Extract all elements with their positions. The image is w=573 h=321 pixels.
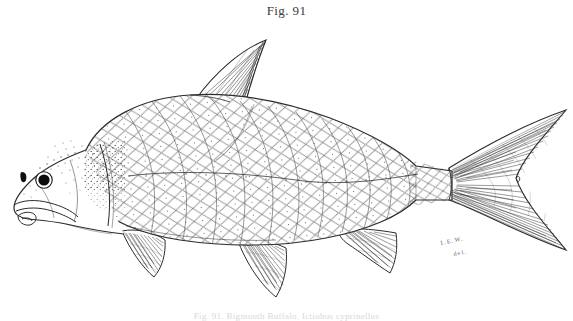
eye [36,172,52,188]
pectoral-fin [122,230,165,277]
artist-signature: I.E.W. del. [440,235,468,257]
plate-caption: Fig. 91. Bigmouth Buffalo. Ictiobus cypr… [0,311,573,321]
svg-text:I.E.W.: I.E.W. [440,235,464,246]
scales [80,88,460,252]
anal-fin [337,228,397,273]
pelvic-fin [237,238,287,297]
nostril-icon [20,172,26,182]
caudal-fin [449,110,566,250]
svg-text:del.: del. [453,248,468,257]
head [14,140,128,234]
